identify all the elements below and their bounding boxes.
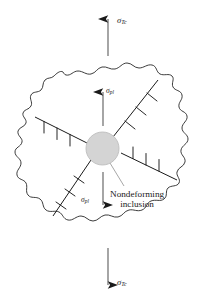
local-stress-label-bottom: σpl	[81, 196, 89, 205]
applied-stress-label-bottom: σTc	[117, 278, 127, 288]
sigma-subscript: pl	[85, 198, 89, 204]
sigma-subscript: Tc	[121, 281, 126, 287]
upper-right-slip-band-line	[113, 80, 158, 137]
sigma-subscript: pl	[110, 89, 114, 95]
nondeforming-inclusion-circle	[86, 132, 119, 165]
upper-left-slip-band-line	[35, 117, 91, 145]
inclusion-callout: Nondeforming inclusion	[110, 190, 164, 209]
diagram-svg	[0, 0, 212, 305]
inclusion-leader-line	[110, 163, 124, 186]
lower-right-slip-band-line	[121, 153, 177, 180]
applied-stress-label-top: σTc	[117, 16, 127, 26]
lower-left-slip-band-line	[53, 157, 93, 216]
upper-right-dislocations	[125, 93, 157, 129]
lower-left-dislocations	[56, 176, 84, 209]
upper-left-dislocations	[44, 122, 70, 147]
lower-right-dislocations	[133, 147, 159, 171]
sigma-subscript: Tc	[121, 19, 126, 25]
inclusion-callout-line2: inclusion	[110, 200, 164, 210]
local-stress-label-top: σpl	[106, 87, 114, 96]
figure-container: σTc σTc σpl σpl Nondeforming inclusion	[0, 0, 212, 305]
